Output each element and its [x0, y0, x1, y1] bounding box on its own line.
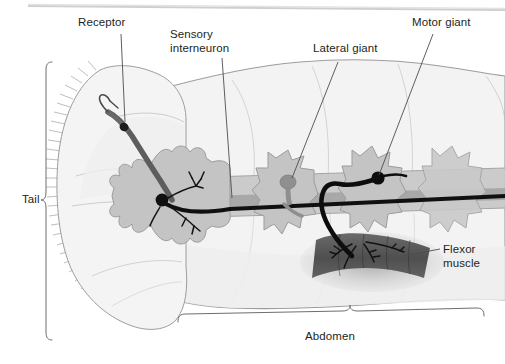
diagram-figure: Receptor Sensoryinterneuron Lateral gian… [0, 0, 505, 364]
label-flexor-muscle-line2: muscle [443, 257, 480, 269]
label-lateral-giant: Lateral giant [313, 42, 378, 56]
label-tail: Tail [22, 193, 40, 207]
label-abdomen: Abdomen [305, 330, 355, 344]
label-receptor: Receptor [78, 16, 125, 30]
flexor-muscle [300, 232, 444, 292]
label-flexor-muscle: Flexormuscle [443, 243, 480, 270]
tail-bracket [41, 62, 52, 340]
label-flexor-muscle-line1: Flexor [443, 243, 476, 255]
diagram-canvas [0, 0, 505, 364]
scan-edge-line [28, 5, 505, 11]
label-sensory-interneuron-line2: interneuron [170, 42, 229, 54]
label-sensory-interneuron-line1: Sensory [170, 28, 213, 40]
label-motor-giant: Motor giant [412, 16, 471, 30]
label-sensory-interneuron: Sensoryinterneuron [170, 28, 229, 55]
